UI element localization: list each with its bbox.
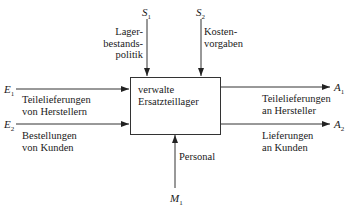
output-label-a1-line-1: Teilelieferungen	[262, 93, 331, 105]
input-label-e2-line-2: von Kunden	[22, 142, 77, 154]
input-label-e2: Bestellungen von Kunden	[22, 130, 77, 153]
input-symbol-e2: E2	[4, 118, 14, 133]
input-label-e2-line-1: Bestellungen	[22, 130, 77, 142]
control-label-s1: Lager- bestands- politik	[103, 26, 143, 61]
output-label-a1: Teilelieferungen an Hersteller	[262, 93, 331, 116]
control-label-s2-line-1: Kosten-	[204, 26, 243, 38]
control-label-s2-line-2: vorgaben	[204, 38, 243, 50]
control-label-s1-line-3: politik	[103, 49, 143, 61]
control-symbol-s2: S2	[196, 6, 205, 21]
control-label-s1-line-1: Lager-	[103, 26, 143, 38]
process-title-line-2: Ersatzteillager	[138, 96, 199, 108]
output-symbol-a2: A2	[334, 118, 344, 133]
output-symbol-a1: A1	[334, 81, 344, 96]
mechanism-label-m1-line-1: Personal	[179, 151, 215, 163]
output-label-a2-line-1: Lieferungen	[262, 130, 313, 142]
control-symbol-s1: S1	[142, 6, 151, 21]
input-symbol-e1: E1	[4, 83, 14, 98]
control-label-s2: Kosten- vorgaben	[204, 26, 243, 49]
mechanism-label-m1: Personal	[179, 151, 215, 163]
mechanism-symbol-m1: M1	[170, 192, 183, 207]
process-title: verwalte Ersatzteillager	[138, 84, 199, 107]
input-label-e1-line-2: von Herstellern	[22, 106, 91, 118]
input-label-e1: Teilelieferungen von Herstellern	[22, 94, 91, 117]
control-label-s1-line-2: bestands-	[103, 38, 143, 50]
process-box: verwalte Ersatzteillager	[130, 77, 221, 135]
output-label-a1-line-2: an Hersteller	[262, 105, 331, 117]
output-label-a2-line-2: an Kunden	[262, 142, 313, 154]
process-title-line-1: verwalte	[138, 84, 199, 96]
input-label-e1-line-1: Teilelieferungen	[22, 94, 91, 106]
output-label-a2: Lieferungen an Kunden	[262, 130, 313, 153]
